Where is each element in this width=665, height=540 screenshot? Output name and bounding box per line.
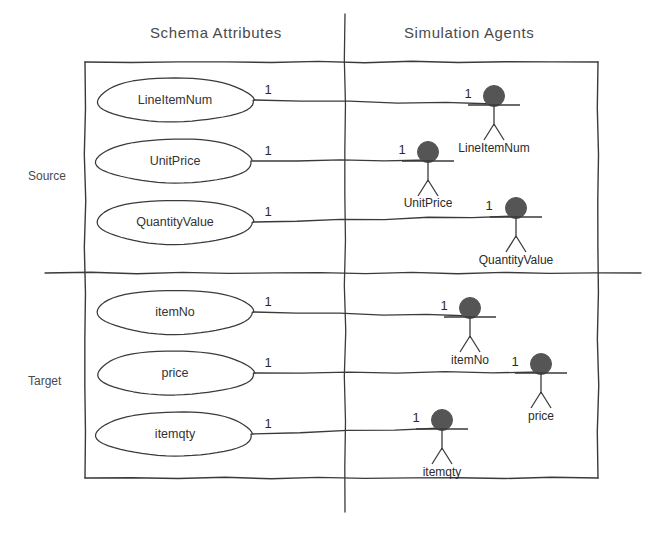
attribute-label-unitprice: UnitPrice — [150, 154, 201, 168]
agent-actor-itemno-leg-left — [460, 336, 470, 352]
diagram-canvas: Schema Attributes Simulation Agents Sour… — [0, 0, 665, 540]
agent-label-price: price — [528, 409, 554, 423]
agent-label-quantityvalue: QuantityValue — [479, 253, 554, 267]
agent-actor-itemqty-head — [432, 410, 453, 431]
agent-actor-price-head — [531, 354, 552, 375]
mapping-line-2 — [253, 160, 428, 161]
multiplicity-source-4: 1 — [264, 294, 271, 309]
agent-actor-quantityvalue — [490, 198, 542, 253]
mapping-line-5 — [253, 372, 541, 374]
attribute-label-lineitemnum: LineItemNum — [138, 93, 212, 107]
agent-actor-unitprice-leg-right — [428, 180, 438, 196]
frame-bottom — [85, 477, 598, 478]
agent-actor-quantityvalue-leg-left — [506, 236, 516, 252]
frame-right — [597, 62, 598, 478]
agent-label-itemno: itemNo — [451, 353, 489, 367]
agent-actor-price-leg-right — [541, 392, 551, 408]
attribute-label-quantityvalue: QuantityValue — [136, 215, 214, 229]
agent-actor-itemno-head — [460, 298, 481, 319]
multiplicity-agent-2: 1 — [398, 142, 405, 157]
agent-actor-quantityvalue-head — [506, 198, 527, 219]
multiplicity-agent-1: 1 — [464, 86, 471, 101]
agent-actor-price-leg-left — [531, 392, 541, 408]
attribute-label-price: price — [161, 366, 188, 380]
multiplicity-agent-6: 1 — [412, 410, 419, 425]
multiplicity-source-2: 1 — [264, 143, 271, 158]
agent-actor-itemqty — [416, 410, 468, 465]
multiplicity-agent-4: 1 — [440, 298, 447, 313]
section-label-source: Source — [28, 169, 66, 183]
agent-actor-itemno — [444, 298, 496, 353]
mapping-line-1 — [253, 100, 494, 104]
agent-actor-unitprice — [402, 142, 454, 197]
agent-actor-itemno-leg-right — [470, 336, 480, 352]
mapping-line-4 — [253, 312, 470, 316]
agent-actor-unitprice-leg-left — [418, 180, 428, 196]
multiplicity-source-6: 1 — [264, 416, 271, 431]
agent-actor-lineitemnum — [468, 86, 520, 141]
multiplicity-agent-5: 1 — [511, 354, 518, 369]
agent-actor-lineitemnum-leg-right — [494, 124, 504, 140]
multiplicity-source-1: 1 — [264, 82, 271, 97]
agent-actor-quantityvalue-leg-right — [516, 236, 526, 252]
agent-actor-lineitemnum-leg-left — [484, 124, 494, 140]
mapping-line-3 — [253, 216, 516, 222]
mapping-line-6 — [253, 428, 442, 434]
multiplicity-source-5: 1 — [264, 355, 271, 370]
section-label-target: Target — [28, 374, 61, 388]
agent-label-lineitemnum: LineItemNum — [458, 141, 529, 155]
agent-actor-lineitemnum-head — [484, 86, 505, 107]
agent-label-unitprice: UnitPrice — [404, 196, 453, 210]
agent-label-itemqty: itemqty — [423, 465, 462, 479]
multiplicity-agent-3: 1 — [485, 198, 492, 213]
divider-horizontal-source-target — [45, 272, 641, 273]
divider-vertical-schema-agents — [344, 14, 345, 512]
column-header-schema-attributes: Schema Attributes — [150, 24, 282, 41]
agent-actor-itemqty-leg-right — [442, 448, 452, 464]
attribute-label-itemqty: itemqty — [155, 427, 195, 441]
diagram-graphics — [0, 0, 665, 540]
agent-actor-itemqty-leg-left — [432, 448, 442, 464]
column-header-simulation-agents: Simulation Agents — [404, 24, 534, 41]
frame-top — [85, 61, 598, 62]
attribute-label-itemno: itemNo — [155, 305, 195, 319]
frame-left — [84, 62, 85, 478]
agent-actor-price — [515, 354, 567, 409]
multiplicity-source-3: 1 — [264, 204, 271, 219]
agent-actor-unitprice-head — [418, 142, 439, 163]
